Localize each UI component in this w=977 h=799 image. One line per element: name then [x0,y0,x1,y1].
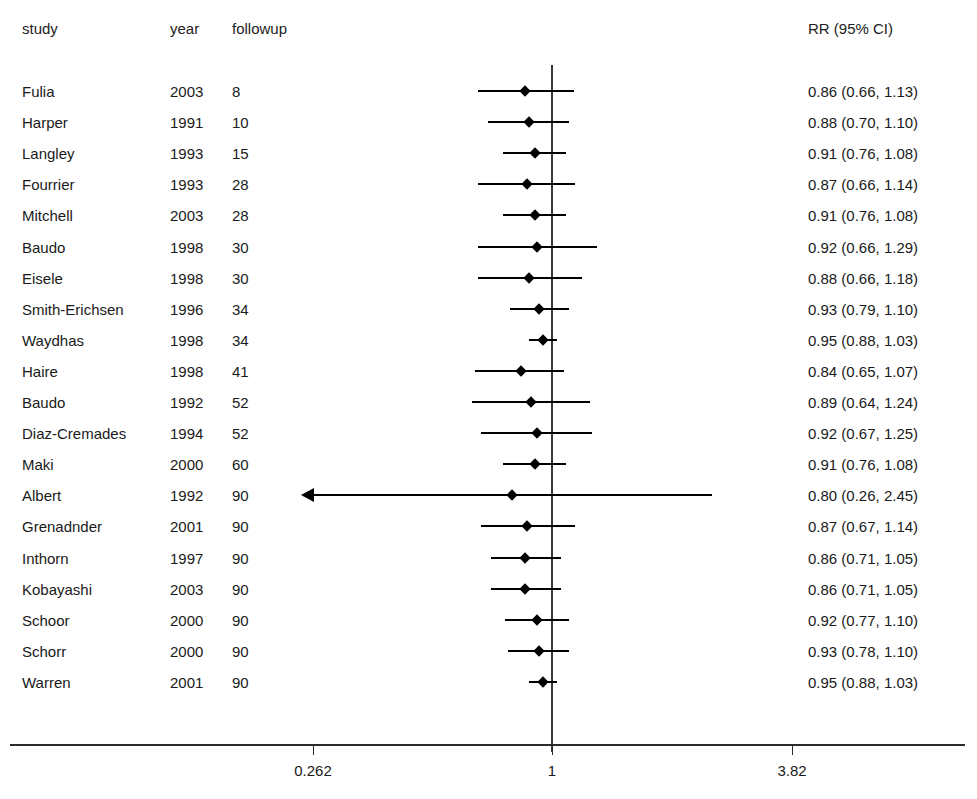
study-name-cell: Baudo [22,240,65,255]
followup-cell: 8 [232,84,240,99]
effect-estimate-cell: 0.92 (0.66, 1.29) [808,240,918,255]
study-name-cell: Kobayashi [22,582,92,597]
followup-cell: 52 [232,395,249,410]
effect-estimate-cell: 0.88 (0.66, 1.18) [808,271,918,286]
column-header-effect: RR (95% CI) [808,20,893,37]
effect-estimate-cell: 0.86 (0.71, 1.05) [808,551,918,566]
x-axis-tick-label: 3.82 [777,762,806,779]
followup-cell: 90 [232,613,249,628]
followup-cell: 15 [232,146,249,161]
followup-cell: 90 [232,644,249,659]
point-estimate-marker [519,552,530,563]
year-cell: 2003 [170,84,203,99]
followup-cell: 30 [232,271,249,286]
effect-estimate-cell: 0.86 (0.66, 1.13) [808,84,918,99]
followup-cell: 52 [232,426,249,441]
study-name-cell: Grenadnder [22,519,102,534]
point-estimate-marker [519,583,530,594]
confidence-interval-line [503,214,566,216]
x-axis-line [10,744,965,746]
effect-estimate-cell: 0.91 (0.76, 1.08) [808,457,918,472]
year-cell: 1991 [170,115,203,130]
effect-estimate-cell: 0.91 (0.76, 1.08) [808,146,918,161]
confidence-interval-line [478,246,598,248]
study-name-cell: Eisele [22,271,63,286]
confidence-interval-line [505,619,569,621]
study-name-cell: Smith-Erichsen [22,302,124,317]
point-estimate-marker [521,521,532,532]
point-estimate-marker [526,396,537,407]
followup-cell: 41 [232,364,249,379]
followup-cell: 90 [232,675,249,690]
point-estimate-marker [537,676,548,687]
confidence-interval-line [475,370,564,372]
year-cell: 2003 [170,208,203,223]
followup-cell: 28 [232,208,249,223]
x-axis-tick [792,746,793,755]
study-name-cell: Albert [22,488,61,503]
effect-estimate-cell: 0.95 (0.88, 1.03) [808,675,918,690]
effect-estimate-cell: 0.92 (0.77, 1.10) [808,613,918,628]
study-name-cell: Fulia [22,84,55,99]
point-estimate-marker [529,210,540,221]
point-estimate-marker [524,116,535,127]
point-estimate-marker [531,614,542,625]
effect-estimate-cell: 0.87 (0.66, 1.14) [808,177,918,192]
x-axis-tick [552,746,553,755]
year-cell: 1997 [170,551,203,566]
confidence-interval-line [508,650,569,652]
confidence-interval-line [313,494,712,496]
point-estimate-marker [529,459,540,470]
effect-estimate-cell: 0.93 (0.78, 1.10) [808,644,918,659]
year-cell: 1998 [170,240,203,255]
study-name-cell: Diaz-Cremades [22,426,126,441]
effect-estimate-cell: 0.93 (0.79, 1.10) [808,302,918,317]
point-estimate-marker [537,334,548,345]
followup-cell: 60 [232,457,249,472]
year-cell: 1998 [170,333,203,348]
followup-cell: 28 [232,177,249,192]
effect-estimate-cell: 0.87 (0.67, 1.14) [808,519,918,534]
followup-cell: 10 [232,115,249,130]
point-estimate-marker [529,148,540,159]
point-estimate-marker [531,241,542,252]
study-name-cell: Langley [22,146,75,161]
column-header-year: year [170,20,199,37]
year-cell: 1998 [170,271,203,286]
effect-estimate-cell: 0.91 (0.76, 1.08) [808,208,918,223]
point-estimate-marker [533,645,544,656]
confidence-interval-line [529,681,557,683]
confidence-interval-line [481,525,576,527]
point-estimate-marker [531,427,542,438]
confidence-interval-line [478,90,574,92]
study-name-cell: Baudo [22,395,65,410]
effect-estimate-cell: 0.84 (0.65, 1.07) [808,364,918,379]
reference-line-at-one [551,65,553,752]
confidence-interval-line [478,277,582,279]
study-name-cell: Schorr [22,644,66,659]
study-name-cell: Schoor [22,613,70,628]
effect-estimate-cell: 0.89 (0.64, 1.24) [808,395,918,410]
study-name-cell: Maki [22,457,54,472]
confidence-interval-line [510,308,569,310]
year-cell: 2000 [170,613,203,628]
year-cell: 1996 [170,302,203,317]
followup-cell: 90 [232,551,249,566]
followup-cell: 90 [232,488,249,503]
effect-estimate-cell: 0.80 (0.26, 2.45) [808,488,918,503]
study-name-cell: Warren [22,675,71,690]
ci-left-arrow-icon [301,488,314,502]
confidence-interval-line [488,121,569,123]
followup-cell: 34 [232,333,249,348]
column-header-study: study [22,20,58,37]
x-axis-tick [313,746,314,755]
followup-cell: 90 [232,582,249,597]
year-cell: 2000 [170,457,203,472]
year-cell: 1992 [170,488,203,503]
forest-plot-figure: study year followup RR (95% CI) Fulia200… [0,0,977,799]
study-name-cell: Haire [22,364,58,379]
x-axis-tick-label: 1 [548,762,556,779]
year-cell: 1994 [170,426,203,441]
year-cell: 1993 [170,177,203,192]
effect-estimate-cell: 0.95 (0.88, 1.03) [808,333,918,348]
